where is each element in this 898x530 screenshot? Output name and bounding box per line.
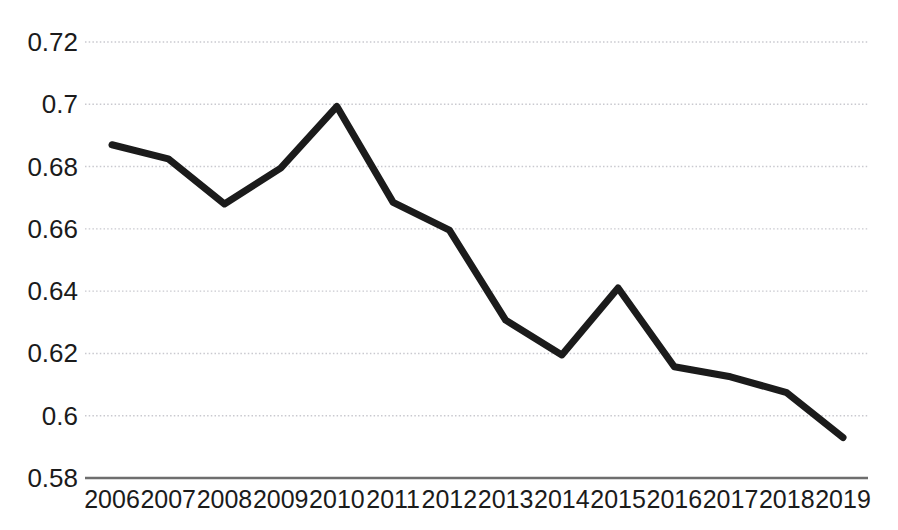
gridlines [85,42,868,416]
y-axis-tick-label: 0.62 [8,340,78,366]
y-axis-tick-label: 0.72 [8,29,78,55]
y-axis-tick-label: 0.7 [8,91,78,117]
series-polyline [112,106,843,437]
y-axis-tick-label: 0.58 [8,465,78,491]
y-axis-tick-label: 0.66 [8,216,78,242]
y-axis-tick-label: 0.6 [8,403,78,429]
data-line-series-1 [112,106,843,437]
y-axis-tick-label: 0.68 [8,154,78,180]
y-axis-tick-label: 0.64 [8,278,78,304]
line-chart: 0.580.60.620.640.660.680.70.72 200620072… [0,0,898,530]
x-axis-tick-label: 2019 [808,487,878,512]
chart-plot-area [0,0,898,530]
